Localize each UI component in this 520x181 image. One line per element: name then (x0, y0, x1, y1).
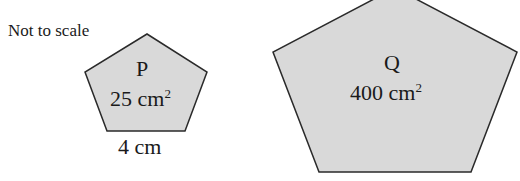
pentagon-p-label: P (136, 56, 148, 82)
not-to-scale-note: Not to scale (8, 21, 89, 41)
pentagon-p-area-value: 25 cm (110, 86, 164, 111)
pentagon-p (85, 34, 207, 131)
pentagon-q-area-exponent: 2 (415, 80, 422, 95)
pentagon-q-area-value: 400 cm (350, 80, 415, 105)
pentagon-p-side-length: 4 cm (118, 134, 161, 160)
pentagon-p-area-exponent: 2 (164, 86, 171, 101)
pentagon-p-area: 25 cm2 (110, 86, 171, 112)
pentagon-q-label: Q (384, 50, 400, 76)
pentagon-q-area: 400 cm2 (350, 80, 422, 106)
